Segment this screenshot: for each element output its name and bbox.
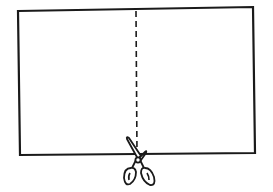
dashed-cut-line bbox=[136, 11, 137, 154]
paper-cut-diagram bbox=[0, 0, 273, 192]
